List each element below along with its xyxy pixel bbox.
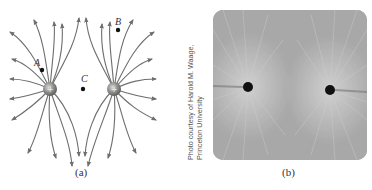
field-photograph xyxy=(213,10,367,160)
point-c-dot xyxy=(81,87,85,91)
panel-b-caption: (b) xyxy=(282,166,295,178)
photo-texture xyxy=(213,10,367,160)
panel-a-field-diagram: + + A B C (a) xyxy=(0,0,180,190)
charge-left: + xyxy=(43,82,57,96)
photo-charge-right xyxy=(325,85,335,95)
point-c-label: C xyxy=(81,73,88,84)
photo-credit-line-1: Photo courtesy of Harold M. Waage, xyxy=(186,44,195,160)
point-a-dot xyxy=(40,68,44,72)
field-lines xyxy=(10,18,156,166)
panel-a-caption: (a) xyxy=(75,166,87,178)
svg-text:+: + xyxy=(111,85,118,94)
charge-right: + xyxy=(107,82,121,96)
photo-credit: Photo courtesy of Harold M. Waage, Princ… xyxy=(186,44,204,160)
photo-credit-line-2: Princeton University xyxy=(195,44,204,160)
point-b-label: B xyxy=(115,16,121,27)
photo-charge-left xyxy=(243,82,253,92)
field-lines-diagram: + + xyxy=(0,0,180,190)
point-a-label: A xyxy=(34,57,40,68)
svg-text:+: + xyxy=(47,85,54,94)
point-b-dot xyxy=(116,28,120,32)
